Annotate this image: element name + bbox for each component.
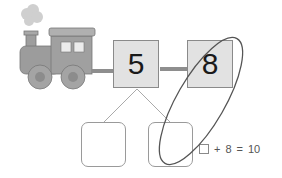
circling-ellipse-annotation <box>144 27 258 176</box>
annotation-layer <box>0 0 282 178</box>
number-bond-diagram: 5 8 + 8 = 10 <box>0 0 282 178</box>
